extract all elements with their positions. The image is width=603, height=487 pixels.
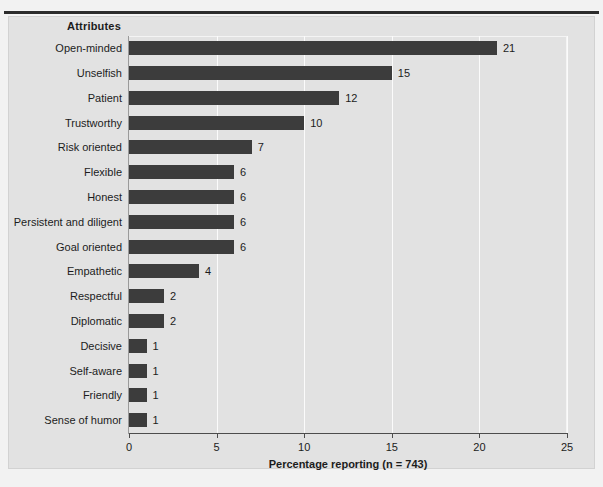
category-label: Empathetic: [0, 265, 122, 277]
bar-value-label: 6: [240, 216, 246, 228]
bar-row: Unselfish15: [0, 61, 603, 86]
bar-value-label: 6: [240, 241, 246, 253]
bar: [129, 140, 252, 154]
bar: [129, 240, 234, 254]
bar-value-label: 15: [398, 67, 410, 79]
bar: [129, 314, 164, 328]
bar-row: Risk oriented7: [0, 135, 603, 160]
bar-value-label: 1: [153, 389, 159, 401]
category-label: Friendly: [0, 389, 122, 401]
category-label: Open-minded: [0, 42, 122, 54]
bar: [129, 116, 304, 130]
bar-row: Respectful2: [0, 284, 603, 309]
bar-value-label: 2: [170, 290, 176, 302]
bar: [129, 215, 234, 229]
bar-row: Sense of humor1: [0, 408, 603, 433]
x-tick-mark: [567, 433, 568, 438]
bar: [129, 339, 147, 353]
bar: [129, 364, 147, 378]
bar: [129, 289, 164, 303]
bar-value-label: 1: [153, 340, 159, 352]
x-tick-label: 0: [109, 441, 149, 453]
x-tick-label: 20: [459, 441, 499, 453]
bar-value-label: 1: [153, 414, 159, 426]
bar-row: Self-aware1: [0, 358, 603, 383]
bar: [129, 264, 199, 278]
category-label: Honest: [0, 191, 122, 203]
bar-value-label: 12: [345, 92, 357, 104]
chart-figure: Attributes Open-minded21Unselfish15Patie…: [0, 0, 603, 487]
bar-row: Goal oriented6: [0, 234, 603, 259]
category-label: Trustworthy: [0, 117, 122, 129]
bar-row: Decisive1: [0, 334, 603, 359]
x-tick-label: 5: [197, 441, 237, 453]
category-axis-header: Attributes: [0, 20, 121, 32]
category-label: Respectful: [0, 290, 122, 302]
category-label: Patient: [0, 92, 122, 104]
bar: [129, 388, 147, 402]
x-axis-title: Percentage reporting (n = 743): [129, 458, 567, 470]
x-tick-mark: [129, 433, 130, 438]
bar-row: Empathetic4: [0, 259, 603, 284]
bar: [129, 66, 392, 80]
bar-row: Honest6: [0, 185, 603, 210]
bar-value-label: 21: [503, 42, 515, 54]
category-label: Diplomatic: [0, 315, 122, 327]
x-tick-mark: [479, 433, 480, 438]
bar: [129, 190, 234, 204]
bar-row: Flexible6: [0, 160, 603, 185]
category-label: Sense of humor: [0, 414, 122, 426]
bar: [129, 41, 497, 55]
bar-value-label: 2: [170, 315, 176, 327]
bar-value-label: 1: [153, 365, 159, 377]
category-label: Unselfish: [0, 67, 122, 79]
x-tick-label: 15: [372, 441, 412, 453]
category-label: Persistent and diligent: [0, 216, 122, 228]
category-label: Self-aware: [0, 365, 122, 377]
bar-value-label: 6: [240, 166, 246, 178]
x-tick-label: 10: [284, 441, 324, 453]
bar-row: Diplomatic2: [0, 309, 603, 334]
bar-value-label: 10: [310, 117, 322, 129]
bar: [129, 413, 147, 427]
bar-row: Open-minded21: [0, 36, 603, 61]
bar-row: Persistent and diligent6: [0, 210, 603, 235]
x-tick-mark: [217, 433, 218, 438]
category-label: Risk oriented: [0, 141, 122, 153]
bar-value-label: 7: [258, 141, 264, 153]
bar-row: Patient12: [0, 86, 603, 111]
bar-row: Friendly1: [0, 383, 603, 408]
bar-row: Trustworthy10: [0, 110, 603, 135]
bar: [129, 165, 234, 179]
bar-value-label: 4: [205, 265, 211, 277]
x-tick-label: 25: [547, 441, 587, 453]
x-axis-line: [129, 433, 568, 434]
category-label: Decisive: [0, 340, 122, 352]
bar: [129, 91, 339, 105]
bar-value-label: 6: [240, 191, 246, 203]
x-tick-mark: [304, 433, 305, 438]
category-label: Flexible: [0, 166, 122, 178]
category-label: Goal oriented: [0, 241, 122, 253]
top-rule-divider: [4, 11, 599, 14]
x-tick-mark: [392, 433, 393, 438]
